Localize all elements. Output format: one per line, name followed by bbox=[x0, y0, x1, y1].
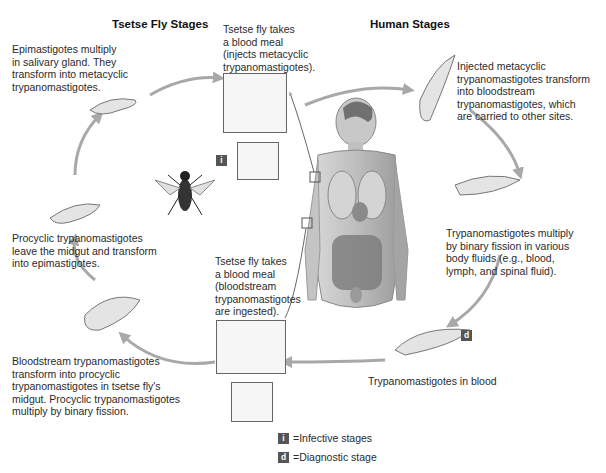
legend-diagnostic: d =Diagnostic stage bbox=[278, 451, 377, 463]
step-salivary-gland: Epimastigotes multiply in salivary gland… bbox=[12, 43, 128, 93]
human-stages-heading: Human Stages bbox=[370, 18, 450, 30]
legend-infective: i =Infective stages bbox=[278, 432, 372, 444]
bloodstream-inset bbox=[231, 382, 273, 422]
step-metacyclic-transform: Injected metacyclic trypanomastigotes tr… bbox=[457, 60, 590, 123]
trypanosoma-life-cycle-diagram: Tsetse Fly Stages Human Stages i d Tsets… bbox=[0, 0, 606, 473]
legend-diagnostic-text: =Diagnostic stage bbox=[293, 451, 377, 463]
infective-badge: i bbox=[216, 155, 227, 166]
human-body-illustration bbox=[302, 98, 408, 308]
tsetse-stages-heading: Tsetse Fly Stages bbox=[112, 18, 208, 30]
metacyclic-inset bbox=[237, 142, 279, 180]
diagnostic-badge: d bbox=[461, 330, 472, 341]
fly-bite-ingest-inset bbox=[216, 320, 286, 374]
step-epimastigote-transform: Procyclic trypanomastigotes leave the mi… bbox=[12, 232, 157, 270]
legend-infective-text: =Infective stages bbox=[293, 432, 372, 444]
fly-bite-inject-inset bbox=[223, 73, 287, 133]
legend-diagnostic-badge: d bbox=[278, 452, 289, 463]
step-blood: Trypanomastigotes in blood bbox=[368, 375, 497, 388]
step-binary-fission-human: Trypanomastigotes multiply by binary fis… bbox=[446, 227, 573, 277]
cycle-arrows bbox=[74, 78, 520, 364]
step-procyclic-transform: Bloodstream trypanomastigotes transform … bbox=[12, 355, 180, 418]
legend-infective-badge: i bbox=[278, 433, 289, 444]
tsetse-fly-illustration bbox=[155, 171, 215, 215]
step-fly-bite-inject: Tsetse fly takes a blood meal (injects m… bbox=[223, 23, 315, 73]
step-fly-bite-ingest: Tsetse fly takes a blood meal (bloodstre… bbox=[215, 255, 301, 318]
